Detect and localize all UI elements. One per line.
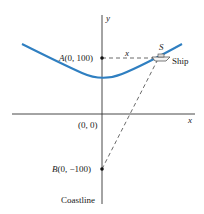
point-s-label: S — [159, 43, 164, 52]
diagram-canvas — [0, 0, 204, 214]
ship-label: Ship — [172, 57, 189, 66]
point-b-label: B(0, −100) — [52, 165, 91, 174]
coastline-label: Coastline — [61, 196, 95, 205]
point-b-coords: (0, −100) — [58, 164, 92, 174]
point-a-label: A(0, 100) — [59, 54, 93, 63]
point-a — [100, 56, 104, 60]
point-b — [100, 167, 104, 171]
ship-icon — [152, 54, 170, 61]
y-axis-label: y — [106, 14, 110, 23]
origin-label: (0, 0) — [78, 121, 98, 130]
point-a-coords: (0, 100) — [65, 53, 94, 63]
x-axis-label: x — [188, 116, 192, 125]
distance-label: x — [125, 49, 129, 58]
